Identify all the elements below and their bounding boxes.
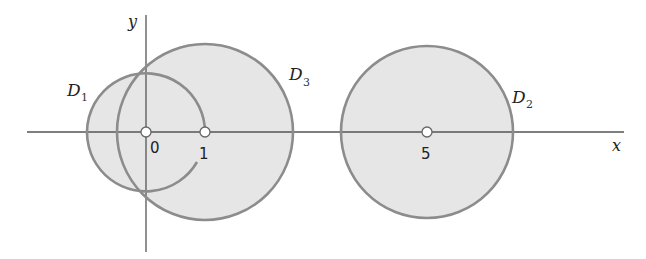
x-axis-label: x	[612, 136, 621, 155]
point-label-0: 0	[150, 139, 160, 157]
point-label-5: 5	[421, 145, 431, 163]
region-label-d3: D	[288, 64, 303, 84]
region-label-d3-sub: 3	[303, 76, 310, 89]
region-label-d2: D	[511, 87, 526, 107]
point-origin	[141, 127, 151, 137]
region-label-d2-sub: 2	[526, 98, 533, 111]
diagram-canvas: 0 1 5 y x D 1 D 3 D 2	[0, 0, 646, 259]
region-label-d1: D	[66, 80, 81, 100]
point-one	[200, 127, 210, 137]
region-label-d1-sub: 1	[81, 91, 88, 104]
point-label-1: 1	[199, 145, 209, 163]
point-five	[422, 127, 432, 137]
y-axis-label: y	[127, 12, 138, 31]
